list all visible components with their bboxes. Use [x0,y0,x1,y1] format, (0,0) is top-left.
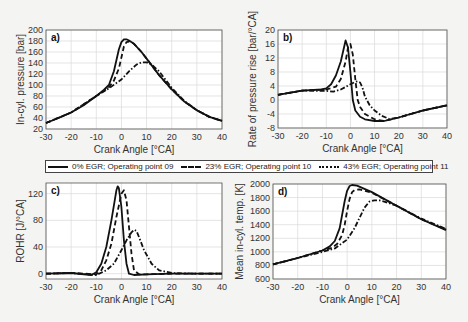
legend-solid-swatch [48,166,68,168]
y-tick-label: 1000 [250,247,270,257]
legend-dashdot-swatch [319,166,339,168]
panel-label: d) [278,186,287,197]
y-tick-label: 1600 [250,206,270,216]
x-tick-label: -10 [90,282,103,292]
y-tick-label: 1200 [250,233,270,243]
plot-area-3 [273,184,446,279]
y-tick-label: 4 [270,81,275,91]
x-tick-label: 0 [348,131,353,141]
x-tick-label: -10 [316,282,329,292]
x-axis-label: Crank Angle [°CA] [94,144,175,155]
y-tick-label: 20 [265,25,275,35]
x-tick-label: 20 [394,131,404,141]
panel-label: c) [51,185,60,196]
x-tick-label: 40 [217,132,227,142]
x-tick-label: 40 [217,282,227,292]
y-tick-label: 120 [28,69,43,79]
x-axis-label: Crank Angle [°CA] [322,143,403,154]
y-tick-label: 120 [28,189,43,199]
x-tick-label: 30 [192,282,202,292]
y-tick-label: 160 [28,47,43,57]
x-tick-label: 30 [416,282,426,292]
x-tick-label: -20 [291,282,304,292]
y-tick-label: 8 [270,67,275,77]
x-tick-label: -30 [39,282,52,292]
y-tick-label: 2000 [250,179,270,189]
x-tick-label: 0 [345,282,350,292]
x-tick-label: 0 [119,132,124,142]
plot-area-1 [278,30,447,128]
x-tick-label: 40 [441,282,451,292]
y-tick-label: 40 [33,242,43,252]
x-tick-label: 30 [192,132,202,142]
y-axis-label: In-cyl. pressure [bar] [15,34,26,125]
legend-dashed-swatch [181,166,201,168]
y-tick-label: 1400 [250,220,270,230]
x-tick-label: -20 [296,131,309,141]
y-tick-label: 140 [28,58,43,68]
y-tick-label: 40 [33,113,43,123]
x-tick-label: 20 [392,282,402,292]
legend-item-0: 0% EGR; Operating point 09 [72,162,173,171]
y-axis-label: Mean in-cyl. temp. [K] [234,183,245,280]
y-tick-label: 20 [33,124,43,134]
x-tick-label: 20 [167,282,177,292]
panel-label: b) [283,32,292,43]
x-tick-label: 10 [370,131,380,141]
legend-item-2: 43% EGR; Operating point 11 [343,162,448,171]
y-tick-label: 0 [38,269,43,279]
y-tick-label: 1800 [250,193,270,203]
y-tick-label: 0 [270,95,275,105]
x-axis-label: Crank Angle [°CA] [94,294,175,305]
y-tick-label: 180 [28,36,43,46]
x-axis-label: Crank Angle [°CA] [319,294,400,305]
y-tick-label: 600 [255,274,270,284]
legend-item-1: 23% EGR; Operating point 10 [205,162,311,171]
x-tick-label: 30 [418,131,428,141]
x-tick-label: 0 [119,282,124,292]
y-axis-label: ROHR [J/°CA] [15,199,26,263]
y-tick-label: 60 [33,102,43,112]
legend: 0% EGR; Operating point 09 23% EGR; Oper… [45,160,433,173]
plot-area-2 [46,183,222,279]
y-axis-label: Rate of pressure rise [bar/°CA] [247,11,258,147]
y-tick-label: 16 [265,39,275,49]
x-tick-label: 10 [367,282,377,292]
x-tick-label: 10 [142,282,152,292]
x-tick-label: -20 [65,282,78,292]
y-tick-label: 100 [28,80,43,90]
panel-label: a) [51,32,60,43]
y-tick-label: 800 [255,260,270,270]
y-tick-label: 12 [265,53,275,63]
y-tick-label: 80 [33,215,43,225]
x-tick-label: -10 [320,131,333,141]
y-tick-label: 200 [28,25,43,35]
x-tick-label: 10 [142,132,152,142]
x-tick-label: 40 [442,131,452,141]
y-tick-label: -4 [267,109,275,119]
x-tick-label: -10 [90,132,103,142]
y-tick-label: -8 [267,123,275,133]
x-tick-label: -20 [65,132,78,142]
y-tick-label: 80 [33,91,43,101]
x-tick-label: 20 [167,132,177,142]
